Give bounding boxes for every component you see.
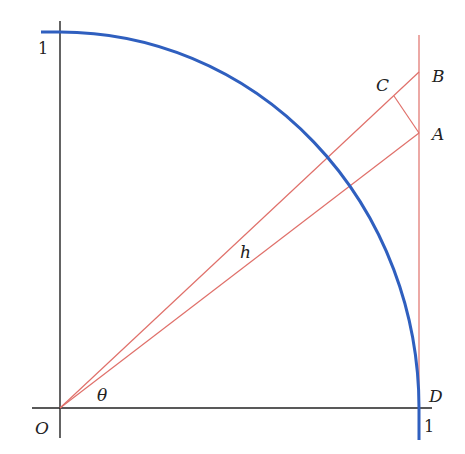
diagram-canvas: 1 1 O θ h B A C D bbox=[0, 0, 465, 454]
label-B: B bbox=[431, 66, 445, 86]
label-O: O bbox=[35, 418, 49, 438]
label-theta: θ bbox=[97, 385, 107, 405]
label-h: h bbox=[240, 242, 251, 262]
ray-OA bbox=[60, 133, 419, 408]
ray-OB bbox=[60, 72, 419, 408]
x-tick-label: 1 bbox=[424, 417, 434, 436]
label-D: D bbox=[428, 386, 443, 406]
segment-AC bbox=[394, 96, 419, 133]
label-C: C bbox=[376, 75, 389, 95]
y-tick-label: 1 bbox=[38, 39, 48, 58]
label-A: A bbox=[430, 124, 444, 144]
